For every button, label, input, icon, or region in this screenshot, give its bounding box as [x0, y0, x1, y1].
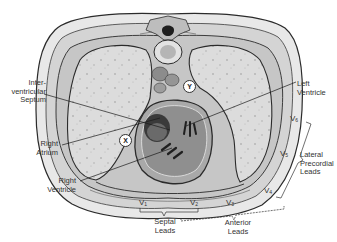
label-right-ventricle: Right Ventricle	[40, 177, 76, 194]
label-interventricular-septum: Inter- ventricular Septum	[18, 79, 46, 105]
thorax-diagram: Inter- ventricular Septum Left Ventricle…	[0, 0, 337, 242]
label-right-atrium: Right Atrium	[30, 140, 58, 157]
marker-x: X	[119, 134, 132, 147]
lead-v1: V1	[139, 198, 147, 207]
lead-v6: V6	[290, 114, 298, 123]
thorax-cross-section-illustration	[0, 0, 337, 242]
label-lateral-precordial-leads: Lateral Precordial Leads	[300, 151, 334, 177]
label-septal-leads: Septal Leads	[148, 218, 182, 235]
label-anterior-leads: Anterior Leads	[218, 219, 258, 236]
marker-y: Y	[183, 80, 196, 93]
lead-v4: V4	[264, 186, 272, 195]
lead-v3: V3	[226, 198, 234, 207]
label-left-ventricle: Left Ventricle	[297, 80, 326, 97]
lead-v5: V5	[280, 149, 288, 158]
lead-v2: V2	[190, 198, 198, 207]
